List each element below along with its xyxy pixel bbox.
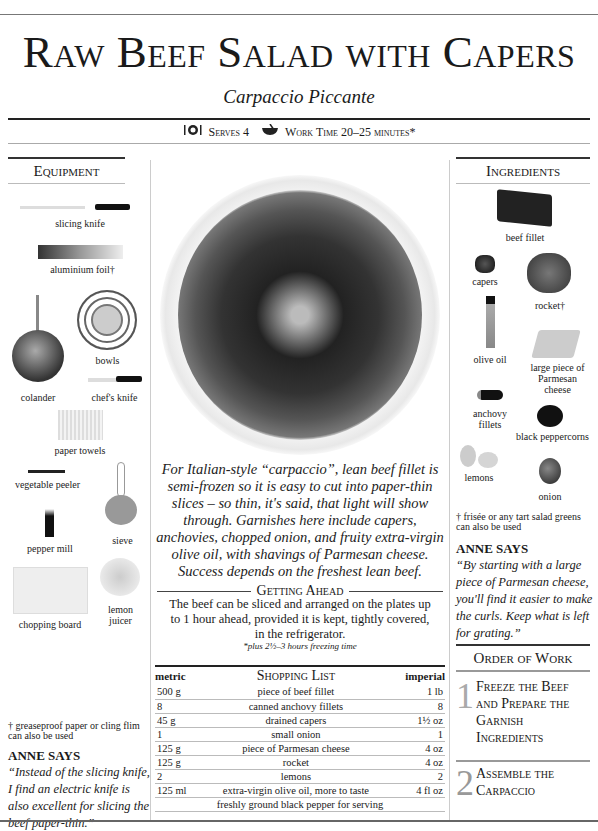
intro-text: For Italian-style “carpaccio”, lean beef… bbox=[155, 461, 445, 580]
imperial-cell: 4 oz bbox=[393, 741, 445, 755]
ingredient-label: black peppercorns bbox=[510, 431, 595, 442]
imperial-cell: 1 bbox=[393, 727, 445, 741]
equipment-label: chef's knife bbox=[82, 392, 147, 403]
ingredient-label: capers bbox=[460, 276, 510, 287]
table-row: 125 g rocket 4 oz bbox=[155, 755, 445, 769]
slicing-knife-blade-image bbox=[20, 206, 85, 209]
header-rule bbox=[8, 118, 590, 120]
imperial-cell: 1 lb bbox=[393, 685, 445, 699]
equipment-label: vegetable peeler bbox=[10, 479, 85, 490]
shopping-list-table: metric Shopping List imperial 500 g piec… bbox=[155, 667, 445, 812]
pepper-mill-image bbox=[45, 502, 54, 537]
rocket-image bbox=[527, 253, 571, 293]
shopping-list-title: Shopping List bbox=[198, 667, 393, 685]
equipment-label: sieve bbox=[100, 535, 145, 546]
colander-image bbox=[12, 330, 64, 382]
item-cell: freshly ground black pepper for serving bbox=[155, 797, 445, 811]
step-number: 2 bbox=[456, 765, 472, 801]
mixing-bowl-icon bbox=[261, 124, 279, 140]
ingredients-section: Ingredients bbox=[456, 157, 590, 184]
item-cell: drained capers bbox=[198, 713, 393, 727]
order-step-divider bbox=[456, 760, 590, 762]
lemon-juicer-image bbox=[100, 558, 140, 596]
chefs-knife-handle-image bbox=[116, 376, 142, 382]
imperial-cell: 1½ oz bbox=[393, 713, 445, 727]
work-time-text: Work Time 20–25 minutes* bbox=[285, 125, 416, 140]
sieve-handle-image bbox=[117, 462, 125, 497]
order-step-1: 1 Freeze the Beef and Prepare the Garnis… bbox=[456, 678, 596, 746]
item-cell: extra-virgin olive oil, more to taste bbox=[198, 783, 393, 797]
right-column-divider bbox=[449, 160, 450, 820]
imperial-column-header: imperial bbox=[393, 667, 445, 685]
metric-cell: 45 g bbox=[155, 713, 198, 727]
ingredient-label: anchovy fillets bbox=[465, 408, 515, 430]
bowls-image bbox=[77, 290, 137, 350]
imperial-cell: 8 bbox=[393, 699, 445, 713]
metric-cell: 500 g bbox=[155, 685, 198, 699]
metric-cell: 2 bbox=[155, 769, 198, 783]
bottom-rule bbox=[0, 820, 598, 822]
table-row: 500 g piece of beef fillet 1 lb bbox=[155, 685, 445, 699]
meta-rule bbox=[8, 143, 590, 144]
parmesan-image bbox=[531, 330, 581, 358]
getting-ahead-rule-right bbox=[349, 591, 443, 592]
recipe-meta: Serves 4 Work Time 20–25 minutes* bbox=[0, 122, 598, 142]
table-row: 125 ml extra-virgin olive oil, more to t… bbox=[155, 783, 445, 797]
page-title: Raw Beef Salad with Capers bbox=[0, 24, 598, 80]
carpaccio-dish-image bbox=[178, 190, 422, 440]
equipment-label: paper towels bbox=[40, 445, 120, 456]
table-row: 45 g drained capers 1½ oz bbox=[155, 713, 445, 727]
ingredients-heading: Ingredients bbox=[456, 159, 590, 183]
metric-cell: 125 g bbox=[155, 741, 198, 755]
vegetable-peeler-image bbox=[28, 470, 65, 473]
equipment-label: chopping board bbox=[10, 619, 90, 630]
chopping-board-image bbox=[13, 567, 88, 614]
equipment-label: pepper mill bbox=[15, 543, 85, 554]
getting-ahead-text: The beef can be sliced and arranged on t… bbox=[165, 597, 435, 642]
order-of-work-bottom-rule bbox=[456, 670, 590, 672]
ingredient-label: onion bbox=[530, 491, 570, 502]
ingredient-label: rocket† bbox=[520, 300, 580, 311]
item-cell: rocket bbox=[198, 755, 393, 769]
item-cell: small onion bbox=[198, 727, 393, 741]
chefs-knife-blade-image bbox=[88, 378, 118, 382]
imperial-cell: 4 oz bbox=[393, 755, 445, 769]
ingredient-label: olive oil bbox=[465, 354, 515, 365]
freezing-note: *plus 2½–3 hours freezing time bbox=[155, 641, 445, 651]
equipment-label: bowls bbox=[80, 355, 135, 366]
ingredient-label: large piece of Parmesan cheese bbox=[525, 362, 590, 395]
colander-handle-image bbox=[36, 295, 39, 335]
anne-says-quote: “By starting with a large piece of Parme… bbox=[456, 557, 594, 642]
lemon-image bbox=[460, 445, 476, 467]
item-cell: lemons bbox=[198, 769, 393, 783]
table-row: 1 small onion 1 bbox=[155, 727, 445, 741]
top-rule bbox=[0, 14, 598, 15]
anne-says-heading: ANNE SAYS bbox=[456, 541, 528, 557]
page-subtitle: Carpaccio Piccante bbox=[0, 86, 598, 108]
slicing-knife-handle-image bbox=[95, 204, 130, 210]
imperial-cell: 2 bbox=[393, 769, 445, 783]
shopping-list-header: metric Shopping List imperial bbox=[155, 667, 445, 685]
left-column-divider bbox=[150, 160, 151, 820]
metric-cell: 8 bbox=[155, 699, 198, 713]
table-row: 125 g piece of Parmesan cheese 4 oz bbox=[155, 741, 445, 755]
ingredient-label: lemons bbox=[455, 472, 503, 483]
equipment-section: Equipment bbox=[8, 157, 125, 184]
lemon-image bbox=[478, 452, 498, 468]
order-step-2: 2 Assemble the Carpaccio bbox=[456, 765, 596, 801]
anne-says-heading: ANNE SAYS bbox=[8, 748, 80, 764]
table-row: freshly ground black pepper for serving bbox=[155, 797, 445, 811]
step-text: Assemble the Carpaccio bbox=[476, 765, 591, 801]
equipment-label: slicing knife bbox=[20, 218, 140, 229]
equipment-footnote: † greaseproof paper or cling flim can al… bbox=[8, 721, 148, 741]
olive-oil-image bbox=[486, 296, 495, 348]
metric-cell: 1 bbox=[155, 727, 198, 741]
metric-cell: 125 g bbox=[155, 755, 198, 769]
equipment-label: colander bbox=[8, 392, 68, 403]
beef-fillet-image bbox=[497, 189, 552, 227]
equipment-label: lemon juicer bbox=[98, 604, 143, 626]
sieve-image bbox=[105, 495, 137, 525]
imperial-cell: 4 fl oz bbox=[393, 783, 445, 797]
equipment-heading: Equipment bbox=[8, 159, 125, 183]
serves-text: Serves 4 bbox=[209, 125, 249, 140]
